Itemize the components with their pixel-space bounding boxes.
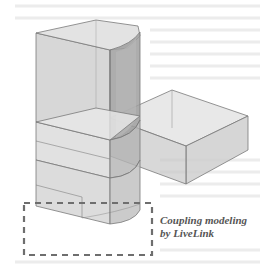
coupling-annotation: Coupling modeling by LiveLink [160, 214, 247, 240]
annotation-line-2: by LiveLink [160, 227, 247, 240]
annotation-line-1: Coupling modeling [160, 214, 247, 227]
cad-figure: Coupling modeling by LiveLink [0, 0, 270, 270]
